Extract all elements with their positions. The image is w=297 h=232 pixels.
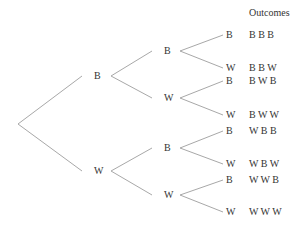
outcome-label: W W B [249, 175, 279, 185]
leaf-node-b: B [226, 175, 233, 185]
branch-line-level3 [180, 131, 223, 148]
outcome-label: W B W [249, 159, 279, 169]
branch-line-level1 [18, 124, 82, 171]
outcomes-header: Outcomes [249, 8, 290, 18]
leaf-node-w: W [226, 63, 235, 73]
leaf-node-w: W [226, 159, 235, 169]
branch-line-level1 [18, 76, 82, 124]
leaf-node-b: B [226, 76, 233, 86]
branch-line-level2 [111, 51, 152, 76]
branch-line-level3 [180, 180, 223, 195]
node-level1-w: W [94, 166, 103, 176]
branch-line-level3 [180, 81, 223, 98]
outcome-label: B W B [249, 76, 276, 86]
outcome-label: W B B [249, 126, 277, 136]
branch-line-level2 [111, 171, 152, 195]
node-level2-b: B [164, 143, 171, 153]
leaf-node-w: W [226, 110, 235, 120]
node-level2-w: W [164, 93, 173, 103]
outcome-label: B B W [249, 63, 277, 73]
outcome-label: B B B [249, 30, 274, 40]
branch-line-level3 [180, 195, 223, 212]
node-level2-b: B [164, 46, 171, 56]
branch-line-level3 [180, 51, 223, 68]
branch-line-level2 [111, 76, 152, 98]
node-level1-b: B [94, 71, 101, 81]
branch-line-level3 [180, 148, 223, 164]
branch-line-level3 [180, 98, 223, 115]
outcome-label: W W W [249, 207, 282, 217]
branch-line-level3 [180, 35, 223, 51]
leaf-node-b: B [226, 30, 233, 40]
leaf-node-w: W [226, 207, 235, 217]
outcome-label: B W W [249, 110, 279, 120]
leaf-node-b: B [226, 126, 233, 136]
node-level2-w: W [164, 190, 173, 200]
branch-line-level2 [111, 148, 152, 171]
